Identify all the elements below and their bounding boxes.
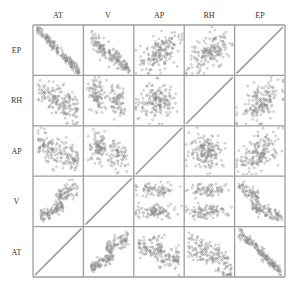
cell-ap-vs-v xyxy=(87,129,129,175)
cell-rh-vs-ep xyxy=(236,76,284,124)
cell-ep-vs-ap xyxy=(135,30,183,75)
cell-rh-vs-rh xyxy=(186,77,232,123)
cell-at-vs-ap xyxy=(138,234,180,276)
scatter-matrix-plot-area xyxy=(0,0,300,302)
identity-line xyxy=(136,128,182,174)
cell-ep-vs-v xyxy=(90,30,131,73)
cell-v-vs-rh xyxy=(185,183,232,220)
cell-ep-vs-ep xyxy=(237,27,283,73)
scatter-matrix-chart: AT V AP RH EP EP RH AP V AT xyxy=(0,0,300,302)
cell-ap-vs-at xyxy=(37,127,79,171)
cell-v-vs-ep xyxy=(238,181,283,221)
identity-line xyxy=(186,77,232,123)
identity-line xyxy=(85,178,131,224)
cell-rh-vs-at xyxy=(37,80,79,125)
cell-v-vs-ap xyxy=(135,181,183,220)
cell-v-vs-at xyxy=(40,179,79,223)
cell-ep-vs-rh xyxy=(185,26,233,74)
identity-line xyxy=(237,27,283,73)
cell-rh-vs-ap xyxy=(135,77,178,125)
cell-v-vs-v xyxy=(85,178,131,224)
cell-rh-vs-v xyxy=(86,76,126,120)
cell-at-vs-v xyxy=(90,231,129,273)
cell-ep-vs-at xyxy=(36,26,80,74)
cell-at-vs-ep xyxy=(238,228,282,276)
cell-at-vs-at xyxy=(35,229,81,275)
cell-ap-vs-ap xyxy=(136,128,182,174)
cell-ap-vs-ep xyxy=(236,127,284,175)
cell-at-vs-rh xyxy=(187,232,232,276)
identity-line xyxy=(35,229,81,275)
cell-ap-vs-rh xyxy=(185,127,226,175)
